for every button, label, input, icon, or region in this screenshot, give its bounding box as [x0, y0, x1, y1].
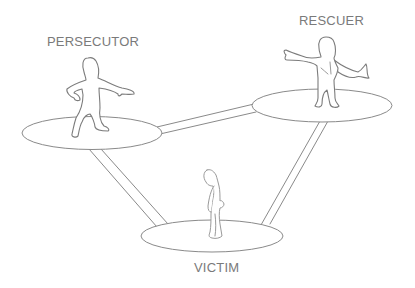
connector-persecutor-victim	[89, 149, 168, 227]
label-victim: VICTIM	[194, 261, 239, 275]
platform-persecutor	[22, 117, 162, 150]
label-persecutor: PERSECUTOR	[47, 35, 139, 49]
connector-rescuer-victim	[261, 121, 328, 225]
label-rescuer: RESCUER	[299, 14, 364, 28]
connector-persecutor-rescuer	[157, 104, 256, 134]
